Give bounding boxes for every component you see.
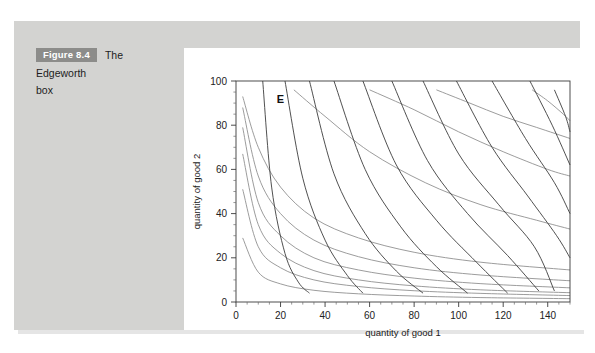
y-axis-title: quantity of good 2 — [191, 154, 202, 230]
figure-caption: Figure 8.4The Edgeworth box — [36, 45, 176, 97]
y-tick-label: 20 — [216, 252, 228, 263]
x-tick-label: 120 — [495, 310, 512, 321]
consumer-B-indifference-curve-4 — [334, 81, 468, 293]
x-tick-label: 20 — [275, 310, 287, 321]
y-tick-label: 0 — [221, 297, 227, 308]
consumer-A-indifference-curve-5 — [243, 108, 570, 281]
consumer-A-indifference-curve-1 — [243, 238, 570, 299]
endowment-point: E — [277, 93, 284, 105]
figure-number-badge: Figure 8.4 — [36, 48, 97, 63]
chart-annotations: E — [277, 93, 284, 105]
x-axis-title: quantity of good 1 — [365, 327, 441, 338]
consumer-B-indifference-curve-8 — [456, 81, 570, 258]
chart-card: 020406080100120140020406080100quantity o… — [184, 48, 583, 338]
y-tick-label: 60 — [216, 164, 228, 175]
consumer-A-indifference-curve-10 — [532, 90, 570, 121]
consumer-B-indifference-curve-9 — [492, 81, 570, 214]
y-tick-label: 100 — [210, 76, 227, 87]
consumer-A-indifference-curve-4 — [243, 127, 570, 287]
figure-page: Figure 8.4The Edgeworth box 020406080100… — [0, 0, 595, 353]
x-tick-label: 0 — [233, 310, 239, 321]
consumer-B-indifference-curve-6 — [392, 81, 539, 291]
consumer-A-indifference-curve-7 — [294, 90, 570, 229]
y-tick-label: 80 — [216, 120, 228, 131]
x-tick-label: 100 — [450, 310, 467, 321]
figure-title-line2: box — [36, 83, 176, 97]
x-tick-label: 140 — [539, 310, 556, 321]
figure-panel: Figure 8.4The Edgeworth box 020406080100… — [14, 21, 580, 330]
consumer-B-indifference-curve-11 — [554, 90, 570, 132]
y-tick-label: 40 — [216, 208, 228, 219]
x-tick-label: 80 — [409, 310, 421, 321]
x-tick-label: 40 — [320, 310, 332, 321]
consumer-B-indifference-curve-7 — [423, 81, 554, 291]
edgeworth-box-chart: 020406080100120140020406080100quantity o… — [184, 48, 583, 338]
consumer-A-indifference-curve-3 — [243, 154, 570, 293]
x-tick-label: 60 — [364, 310, 376, 321]
consumer-B-indifference-curve-10 — [530, 81, 570, 165]
consumer-B-indifference-curve-3 — [309, 81, 423, 293]
consumer-b-curve-group — [263, 81, 570, 293]
